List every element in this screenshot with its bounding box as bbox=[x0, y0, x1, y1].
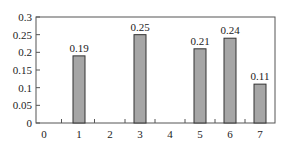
data-labels: 0.190.250.210.240.11 bbox=[69, 21, 269, 82]
x-tick-label: 2 bbox=[107, 128, 113, 140]
x-tick-label: 3 bbox=[137, 128, 143, 140]
bar-value-label: 0.21 bbox=[190, 35, 209, 47]
bars bbox=[73, 35, 266, 123]
bar-value-label: 0.19 bbox=[69, 42, 89, 54]
x-tick-label: 4 bbox=[167, 128, 173, 140]
bar bbox=[194, 49, 206, 123]
bar-chart: 00.050.10.150.20.250.3 01234567 0.190.25… bbox=[0, 0, 288, 147]
y-tick-label: 0.25 bbox=[13, 29, 33, 41]
bar-value-label: 0.24 bbox=[220, 24, 240, 36]
x-tick-label: 7 bbox=[257, 128, 263, 140]
bar bbox=[224, 38, 236, 123]
y-tick-label: 0.05 bbox=[13, 99, 33, 111]
x-tick-label: 6 bbox=[227, 128, 233, 140]
bar-value-label: 0.25 bbox=[130, 21, 150, 33]
bar bbox=[73, 56, 85, 123]
y-tick-label: 0.1 bbox=[18, 82, 32, 94]
y-tick-label: 0.2 bbox=[18, 46, 32, 58]
x-tick-label: 5 bbox=[197, 128, 203, 140]
bar bbox=[254, 84, 266, 123]
bar-value-label: 0.11 bbox=[251, 70, 270, 82]
y-tick-label: 0.3 bbox=[18, 11, 32, 23]
x-tick-label: 1 bbox=[76, 128, 82, 140]
bar bbox=[134, 35, 146, 123]
y-tick-label: 0 bbox=[27, 117, 33, 129]
x-tick-label: 0 bbox=[41, 128, 47, 140]
y-tick-label: 0.15 bbox=[13, 64, 33, 76]
